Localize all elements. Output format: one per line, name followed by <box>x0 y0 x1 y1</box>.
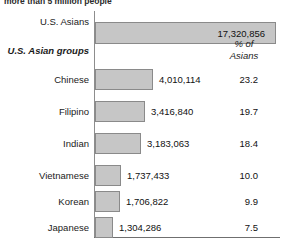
bar-row-label: Indian <box>0 139 89 149</box>
bar-row-label: Chinese <box>0 75 89 85</box>
percent-value: 23.2 <box>208 75 258 85</box>
percent-header-line1: % of <box>208 38 280 50</box>
bar-row-label: Korean <box>0 197 89 207</box>
percent-column-header: % of Asians <box>208 38 280 61</box>
percent-value: 9.9 <box>208 197 258 207</box>
bar-row: Korean1,706,8229.9 <box>0 191 286 212</box>
percent-value: 10.0 <box>208 171 258 181</box>
percent-header-line2: Asians <box>208 50 280 62</box>
bar <box>95 133 141 154</box>
percent-value: 7.5 <box>208 223 258 233</box>
percent-value: 18.4 <box>208 139 258 149</box>
bar-row: Filipino3,416,84019.7 <box>0 101 286 122</box>
bar <box>95 69 153 90</box>
bar-row: Indian3,183,06318.4 <box>0 133 286 154</box>
asian-population-bar-chart: more than 5 million people U.S. Asians 1… <box>0 0 286 246</box>
total-row-label: U.S. Asians <box>0 17 89 27</box>
total-row: U.S. Asians 17,320,856 <box>0 11 286 33</box>
bar-value-label: 1,737,433 <box>127 171 169 181</box>
bar <box>95 217 113 238</box>
groups-header-label: U.S. Asian groups <box>0 46 89 56</box>
bar-row: Japanese1,304,2867.5 <box>0 217 286 238</box>
bar-row: Chinese4,010,11423.2 <box>0 69 286 90</box>
bar <box>95 165 121 186</box>
bar <box>95 101 145 122</box>
bar-value-label: 3,183,063 <box>147 139 189 149</box>
bar-row-label: Japanese <box>0 223 89 233</box>
bar <box>95 191 120 212</box>
bar-row: Vietnamese1,737,43310.0 <box>0 165 286 186</box>
percent-value: 19.7 <box>208 107 258 117</box>
bar-value-label: 3,416,840 <box>151 107 193 117</box>
bar-value-label: 4,010,114 <box>159 75 201 85</box>
bar-row-label: Vietnamese <box>0 171 89 181</box>
bar-row-label: Filipino <box>0 107 89 117</box>
bar-value-label: 1,706,822 <box>126 197 168 207</box>
chart-caption-text: more than 5 million people <box>4 0 204 6</box>
bar-value-label: 1,304,286 <box>119 223 161 233</box>
chart-caption: more than 5 million people <box>4 0 204 6</box>
